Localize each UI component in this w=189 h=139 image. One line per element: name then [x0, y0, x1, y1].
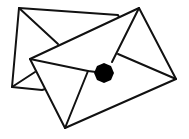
envelopes-illustration — [0, 0, 189, 139]
wax-seal-icon — [94, 63, 114, 83]
envelopes-drawing — [0, 0, 189, 139]
